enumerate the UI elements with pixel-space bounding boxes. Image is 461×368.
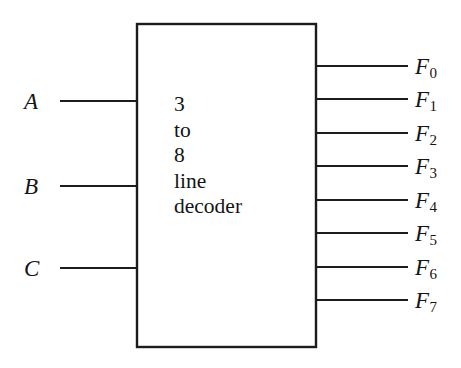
output-label-f0: F0 bbox=[415, 55, 437, 81]
output-label-f7-sub: 7 bbox=[430, 299, 438, 315]
output-label-f1: F1 bbox=[415, 88, 437, 114]
block-text-line-1: 3 bbox=[174, 92, 304, 118]
output-label-f1-sub: 1 bbox=[430, 98, 438, 114]
output-label-f4: F4 bbox=[415, 189, 437, 215]
block-text-line-3: 8 bbox=[174, 143, 304, 169]
output-label-f2-sub: 2 bbox=[430, 132, 438, 148]
output-label-f6: F6 bbox=[415, 256, 437, 282]
block-text-line-2: to bbox=[174, 118, 304, 144]
output-label-f5-base: F bbox=[415, 221, 429, 246]
output-label-f7-base: F bbox=[415, 288, 429, 313]
diagram-canvas: 3 to 8 line decoder A B C F0 F1 F2 F3 F4… bbox=[0, 0, 461, 368]
output-label-f3-sub: 3 bbox=[430, 165, 438, 181]
output-label-f3: F3 bbox=[415, 155, 437, 181]
output-label-f1-base: F bbox=[415, 87, 429, 112]
output-label-f2: F2 bbox=[415, 122, 437, 148]
decoder-block-label: 3 to 8 line decoder bbox=[174, 92, 304, 220]
input-label-a: A bbox=[24, 90, 38, 113]
block-text-line-5: decoder bbox=[174, 194, 304, 220]
output-label-f3-base: F bbox=[415, 154, 429, 179]
input-label-b: B bbox=[24, 175, 38, 198]
output-label-f2-base: F bbox=[415, 121, 429, 146]
output-label-f6-sub: 6 bbox=[430, 266, 438, 282]
block-text-line-4: line bbox=[174, 169, 304, 195]
output-label-f5-sub: 5 bbox=[430, 232, 438, 248]
output-label-f4-sub: 4 bbox=[430, 199, 438, 215]
output-label-f7: F7 bbox=[415, 289, 437, 315]
output-label-f5: F5 bbox=[415, 222, 437, 248]
output-label-f0-sub: 0 bbox=[430, 65, 438, 81]
output-label-f0-base: F bbox=[415, 54, 429, 79]
output-label-f4-base: F bbox=[415, 188, 429, 213]
output-label-f6-base: F bbox=[415, 255, 429, 280]
input-label-c: C bbox=[24, 257, 40, 280]
